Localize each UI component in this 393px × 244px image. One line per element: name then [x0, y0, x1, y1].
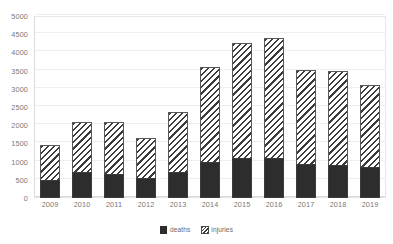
bar-2011[interactable]	[104, 16, 124, 198]
bar-segment-injuries-2019[interactable]	[360, 85, 380, 167]
legend-item-injuries[interactable]: injuries	[201, 226, 233, 234]
bar-segment-deaths-2014[interactable]	[200, 162, 220, 198]
bar-segment-deaths-2018[interactable]	[328, 165, 348, 198]
legend-swatch-deaths-icon	[160, 226, 168, 234]
bar-segment-deaths-2017[interactable]	[296, 164, 316, 198]
bar-segment-injuries-2018[interactable]	[328, 71, 348, 165]
x-tick-label-2009: 2009	[40, 200, 60, 209]
y-tick-label: 3000	[0, 84, 28, 93]
legend-label-injuries: injuries	[211, 226, 233, 233]
legend-item-deaths[interactable]: deaths	[160, 226, 190, 234]
x-tick-label-2011: 2011	[104, 200, 124, 209]
bar-segment-injuries-2014[interactable]	[200, 67, 220, 162]
bar-2017[interactable]	[296, 16, 316, 198]
bar-segment-deaths-2013[interactable]	[168, 172, 188, 198]
bar-segment-injuries-2013[interactable]	[168, 112, 188, 171]
y-tick-label: 4500	[0, 30, 28, 39]
bar-2009[interactable]	[40, 16, 60, 198]
legend-swatch-injuries-icon	[201, 226, 209, 234]
x-tick-label-2019: 2019	[360, 200, 380, 209]
bar-segment-injuries-2010[interactable]	[72, 122, 92, 172]
chart-legend: deathsinjuries	[0, 226, 393, 234]
legend-label-deaths: deaths	[170, 226, 190, 233]
bar-segment-injuries-2011[interactable]	[104, 122, 124, 174]
y-tick-label: 3500	[0, 66, 28, 75]
bar-segment-injuries-2012[interactable]	[136, 138, 156, 178]
bar-2014[interactable]	[200, 16, 220, 198]
x-tick-label-2015: 2015	[232, 200, 252, 209]
bar-2015[interactable]	[232, 16, 252, 198]
bar-segment-deaths-2010[interactable]	[72, 172, 92, 198]
gridline-5000	[35, 14, 385, 15]
x-tick-label-2012: 2012	[136, 200, 156, 209]
x-tick-label-2013: 2013	[168, 200, 188, 209]
y-tick-label: 4000	[0, 48, 28, 57]
bar-2019[interactable]	[360, 16, 380, 198]
x-tick-label-2014: 2014	[200, 200, 220, 209]
bar-segment-injuries-2016[interactable]	[264, 38, 284, 158]
bar-segment-deaths-2015[interactable]	[232, 158, 252, 198]
bar-2012[interactable]	[136, 16, 156, 198]
bar-segment-deaths-2019[interactable]	[360, 167, 380, 198]
bar-2010[interactable]	[72, 16, 92, 198]
y-tick-label: 0	[0, 194, 28, 203]
stacked-bar-chart: 0500100015002000250030003500400045005000…	[0, 0, 393, 244]
x-axis-tick-labels: 2009201020112012201320142015201620172018…	[34, 200, 386, 214]
bar-segment-injuries-2009[interactable]	[40, 145, 60, 180]
y-tick-label: 2500	[0, 103, 28, 112]
y-tick-label: 2000	[0, 121, 28, 130]
bar-2016[interactable]	[264, 16, 284, 198]
y-tick-label: 1000	[0, 157, 28, 166]
y-tick-label: 1500	[0, 139, 28, 148]
bar-series-container	[34, 16, 386, 198]
bar-segment-deaths-2012[interactable]	[136, 178, 156, 198]
y-axis-tick-labels: 0500100015002000250030003500400045005000	[0, 16, 30, 198]
y-tick-label: 5000	[0, 12, 28, 21]
bar-segment-injuries-2017[interactable]	[296, 70, 316, 164]
bar-segment-deaths-2011[interactable]	[104, 174, 124, 198]
x-tick-label-2016: 2016	[264, 200, 284, 209]
bar-segment-deaths-2016[interactable]	[264, 158, 284, 198]
y-tick-label: 500	[0, 175, 28, 184]
x-tick-label-2018: 2018	[328, 200, 348, 209]
x-tick-label-2010: 2010	[72, 200, 92, 209]
bar-2013[interactable]	[168, 16, 188, 198]
bar-segment-injuries-2015[interactable]	[232, 43, 252, 158]
bar-segment-deaths-2009[interactable]	[40, 180, 60, 198]
bar-2018[interactable]	[328, 16, 348, 198]
x-tick-label-2017: 2017	[296, 200, 316, 209]
